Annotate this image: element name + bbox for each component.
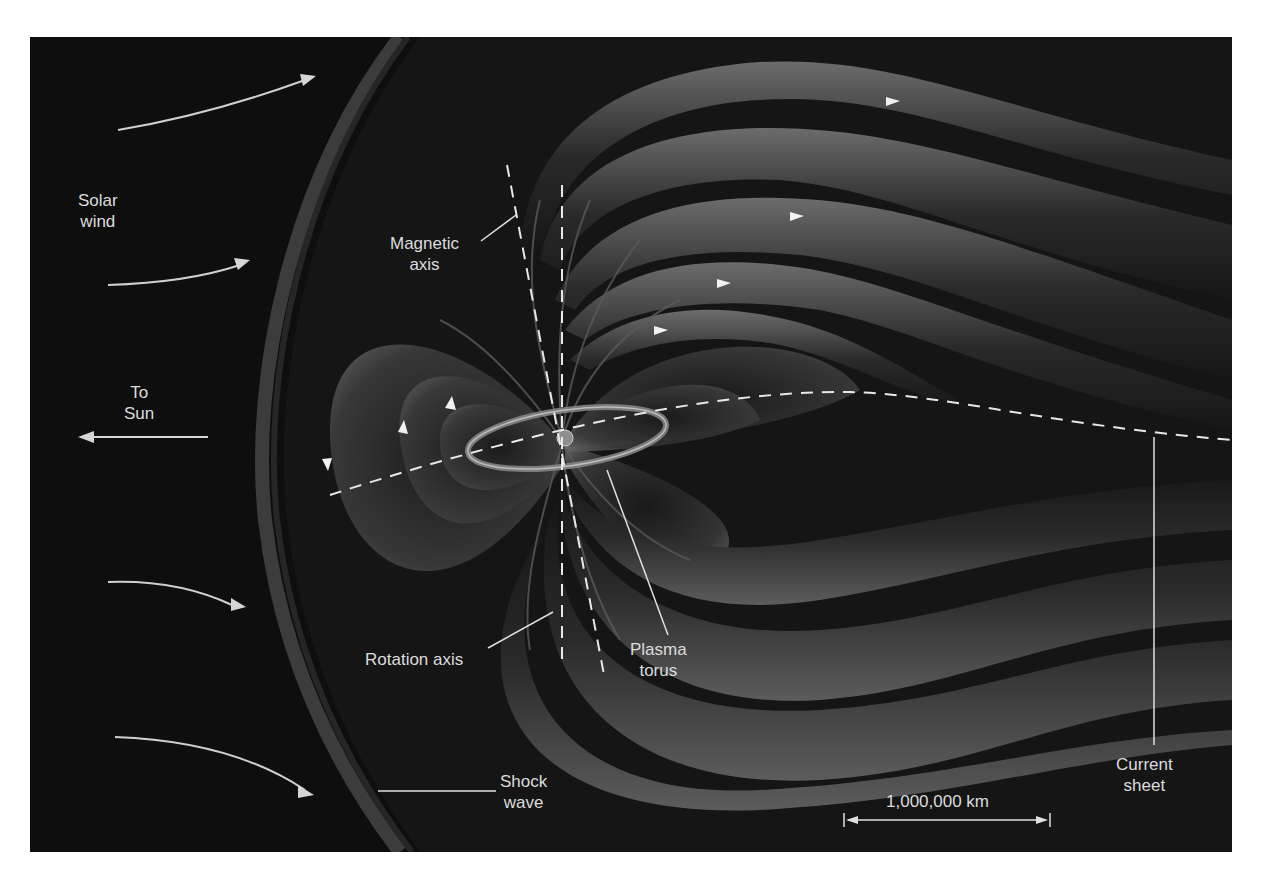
- arrowhead-icon: [234, 258, 250, 270]
- magnetosphere-illustration: [30, 37, 1232, 852]
- to-sun-arrow: [78, 431, 208, 443]
- label-magnetic-axis: Magnetic axis: [390, 233, 459, 275]
- label-current-sheet: Current sheet: [1116, 754, 1173, 796]
- arrowhead-icon: [231, 598, 246, 611]
- label-to-sun: To Sun: [124, 382, 154, 424]
- label-rotation-axis: Rotation axis: [365, 649, 463, 670]
- label-plasma-torus: Plasma torus: [630, 639, 687, 681]
- magnetosphere-diagram: Solar wind To Sun Magnetic axis Rotation…: [30, 37, 1232, 852]
- arrowhead-icon: [300, 74, 316, 86]
- arrowhead-icon: [298, 785, 314, 798]
- label-shock-wave: Shock wave: [500, 771, 547, 813]
- label-solar-wind: Solar wind: [78, 190, 118, 232]
- left-arrow-icon: [78, 431, 94, 443]
- label-scale-bar: 1,000,000 km: [886, 791, 989, 812]
